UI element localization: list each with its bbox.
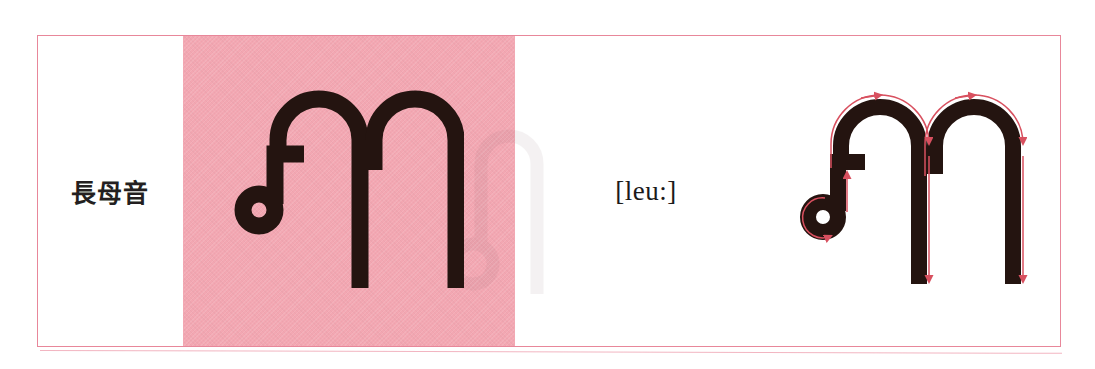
thai-letter-card: 長母音 [leu:] <box>0 0 1095 369</box>
stroke-order-cell <box>777 36 1061 346</box>
frame-bottom-hairline <box>40 350 1062 354</box>
label-cell: 長母音 <box>37 36 183 346</box>
vowel-category-label: 長母音 <box>71 173 149 209</box>
phonetic-cell: [leu:] <box>515 36 777 346</box>
phonetic-transcription: [leu:] <box>615 176 676 207</box>
thai-letter-glyph <box>234 82 464 300</box>
stroke-order-diagram <box>795 84 1043 298</box>
stroke-diagram-letter <box>808 107 1013 284</box>
glyph-cell <box>183 36 515 346</box>
